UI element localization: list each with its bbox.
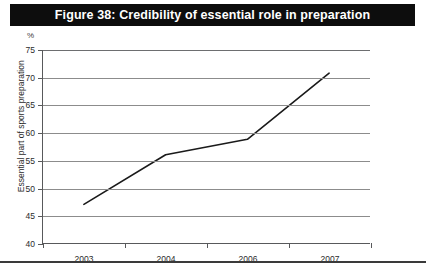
x-axis-tick bbox=[371, 243, 372, 248]
percent-unit-label: % bbox=[27, 32, 34, 40]
y-axis-tick bbox=[38, 161, 43, 162]
y-axis-tick-label: 60 bbox=[9, 129, 35, 138]
y-axis-tick bbox=[38, 78, 43, 79]
y-axis-tick-label: 70 bbox=[9, 74, 35, 83]
y-axis-tick-label: 40 bbox=[9, 240, 35, 249]
x-axis-tick bbox=[207, 243, 208, 248]
x-axis-tick bbox=[289, 243, 290, 248]
figure-title-text: Figure 38: Credibility of essential role… bbox=[55, 9, 370, 22]
gridline bbox=[43, 105, 370, 106]
page-bottom-rule bbox=[0, 261, 426, 263]
y-axis-tick-label: 45 bbox=[9, 212, 35, 221]
y-axis-tick bbox=[38, 50, 43, 51]
gridline bbox=[43, 189, 370, 190]
y-axis-tick bbox=[38, 133, 43, 134]
gridline bbox=[43, 78, 370, 79]
x-axis-tick bbox=[43, 243, 44, 248]
y-axis-tick bbox=[38, 105, 43, 106]
y-axis-tick bbox=[38, 189, 43, 190]
plot-area: 40455055606570752003200420062007 bbox=[42, 50, 370, 244]
line-series-path bbox=[84, 73, 329, 204]
gridline bbox=[43, 216, 370, 217]
y-axis-tick-label: 75 bbox=[9, 46, 35, 55]
gridline bbox=[43, 50, 370, 51]
gridline bbox=[43, 161, 370, 162]
figure-title-bar: Figure 38: Credibility of essential role… bbox=[10, 4, 415, 26]
y-axis-tick bbox=[38, 216, 43, 217]
data-series-line bbox=[43, 50, 370, 243]
gridline bbox=[43, 133, 370, 134]
x-axis-tick bbox=[125, 243, 126, 248]
y-axis-tick-label: 65 bbox=[9, 101, 35, 110]
y-axis-tick-label: 50 bbox=[9, 185, 35, 194]
y-axis-tick-label: 55 bbox=[9, 157, 35, 166]
chart-figure: % Essential part of sports preparation 4… bbox=[0, 26, 426, 262]
